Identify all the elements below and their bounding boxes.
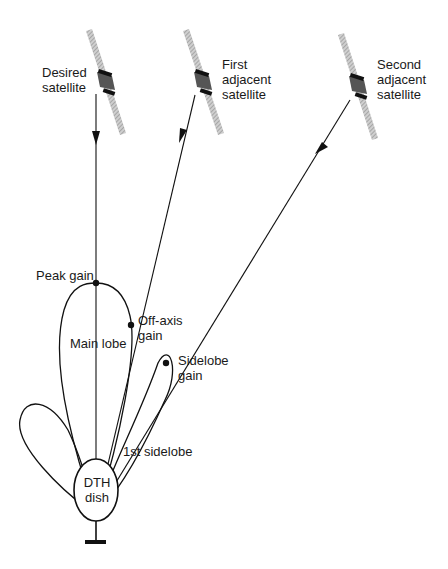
desired-satellite-label: Desired satellite — [42, 65, 87, 95]
off-axis-gain-point — [128, 322, 134, 328]
label-line: Off-axis — [138, 313, 183, 328]
label-line: Sidelobe — [178, 353, 229, 368]
label-line: First — [222, 57, 271, 72]
label-line: DTH — [83, 475, 111, 490]
peak-gain-label: Peak gain — [36, 268, 94, 283]
antenna-pattern-diagram: Desired satellite First adjacent satelli… — [0, 0, 448, 569]
second-adjacent-satellite-label: Second adjacent satellite — [377, 57, 426, 102]
second-adjacent-satellite-icon — [338, 33, 378, 140]
first-sidelobe-label: 1st sidelobe — [123, 444, 192, 459]
sidelobe-gain-point — [163, 360, 169, 366]
dish-base — [85, 540, 106, 544]
first-adjacent-satellite-label: First adjacent satellite — [222, 57, 271, 102]
label-line: satellite — [42, 80, 87, 95]
desired-satellite-icon — [86, 29, 126, 135]
main-lobe-label: Main lobe — [70, 336, 126, 351]
label-line: gain — [138, 328, 183, 343]
dth-dish-label: DTH dish — [83, 475, 111, 505]
arrowheads — [92, 128, 328, 154]
sidelobe-gain-label: Sidelobe gain — [178, 353, 229, 383]
label-line: adjacent — [377, 72, 426, 87]
label-line: satellite — [377, 87, 426, 102]
label-line: gain — [178, 368, 229, 383]
label-line: dish — [83, 490, 111, 505]
label-line: adjacent — [222, 72, 271, 87]
label-line: Desired — [42, 65, 87, 80]
off-axis-gain-label: Off-axis gain — [138, 313, 183, 343]
label-line: satellite — [222, 87, 271, 102]
label-line: Second — [377, 57, 426, 72]
